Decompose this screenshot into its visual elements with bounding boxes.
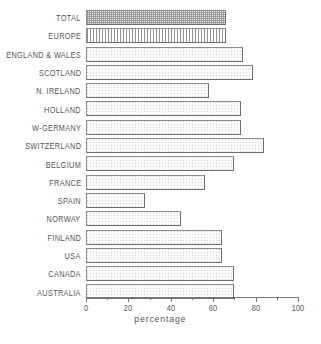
category-label: SCOTLAND (38, 69, 81, 78)
x-axis-minor-tick (192, 297, 193, 300)
x-axis-minor-tick (150, 297, 151, 300)
x-axis-tick (171, 297, 172, 302)
category-label: W-GERMANY (32, 124, 81, 133)
bar-row: CANADA (86, 265, 298, 283)
x-axis-tick-label: 20 (124, 304, 132, 313)
x-axis-minor-tick (107, 297, 108, 300)
category-label: BELGIUM (46, 160, 81, 169)
bar-row: W-GERMANY (86, 119, 298, 137)
bar-row: N. IRELAND (86, 82, 298, 100)
category-label: AUSTRALIA (37, 288, 81, 297)
category-label: FRANCE (49, 179, 81, 188)
bar-row: SCOTLAND (86, 64, 298, 82)
category-label: SPAIN (58, 197, 81, 206)
bar-row: NORWAY (86, 210, 298, 228)
plot-area: TOTALEUROPEENGLAND & WALESSCOTLANDN. IRE… (86, 9, 298, 297)
category-label: FINLAND (47, 233, 81, 242)
x-axis: 020406080100 (86, 297, 298, 298)
bar (86, 193, 145, 208)
x-axis-minor-tick (234, 297, 235, 300)
bar (86, 47, 243, 62)
bar-row: HOLLAND (86, 100, 298, 118)
x-axis-tick-label: 80 (251, 304, 259, 313)
category-label: HOLLAND (44, 105, 81, 114)
bar-row: USA (86, 247, 298, 265)
bar-row: ENGLAND & WALES (86, 46, 298, 64)
category-label: EUROPE (48, 32, 81, 41)
x-axis-tick (298, 297, 299, 302)
category-label: N. IRELAND (37, 87, 81, 96)
bar-row: FRANCE (86, 174, 298, 192)
bar-chart: TOTALEUROPEENGLAND & WALESSCOTLANDN. IRE… (0, 0, 321, 344)
x-axis-tick (256, 297, 257, 302)
bar (86, 83, 209, 98)
x-axis-tick (128, 297, 129, 302)
x-axis-tick (213, 297, 214, 302)
bar (86, 230, 222, 245)
category-label: SWITZERLAND (25, 142, 81, 151)
x-axis-title-text: percentage (134, 313, 186, 324)
x-axis-minor-tick (277, 297, 278, 300)
bar-row: SWITZERLAND (86, 137, 298, 155)
bar-row: SPAIN (86, 192, 298, 210)
bar-row: EUROPE (86, 27, 298, 45)
category-label: USA (65, 252, 81, 261)
category-label: NORWAY (47, 215, 81, 224)
bar-row: BELGIUM (86, 155, 298, 173)
category-label: ENGLAND & WALES (6, 50, 81, 59)
x-axis-tick-label: 100 (292, 304, 304, 313)
bar (86, 175, 205, 190)
category-label: TOTAL (56, 14, 81, 23)
category-label: CANADA (48, 270, 81, 279)
bar (86, 248, 222, 263)
bar (86, 101, 241, 116)
x-axis-tick (86, 297, 87, 302)
x-axis-tick-label: 0 (84, 304, 88, 313)
bar (86, 138, 264, 153)
bar (86, 211, 181, 226)
bar (86, 266, 234, 281)
x-axis-tick-label: 40 (167, 304, 175, 313)
bar-row: FINLAND (86, 229, 298, 247)
bar (86, 10, 226, 25)
x-axis-tick-label: 60 (209, 304, 217, 313)
bar-row: TOTAL (86, 9, 298, 27)
x-axis-title: percentage (0, 313, 321, 324)
bar (86, 28, 226, 43)
bar (86, 65, 253, 80)
bar (86, 120, 241, 135)
bar (86, 156, 234, 171)
